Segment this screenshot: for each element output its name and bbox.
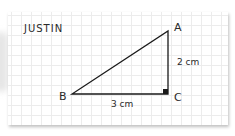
right-triangle [72, 31, 168, 94]
right-angle-marker [163, 89, 168, 94]
side-label-bc: 3 cm [111, 99, 133, 110]
vertex-label-c: C [174, 92, 182, 103]
vertex-label-a: A [174, 22, 182, 33]
triangle-diagram [0, 0, 235, 136]
student-name: JUSTIN [24, 23, 63, 34]
side-label-ac: 2 cm [177, 57, 199, 68]
vertex-label-b: B [59, 91, 67, 102]
